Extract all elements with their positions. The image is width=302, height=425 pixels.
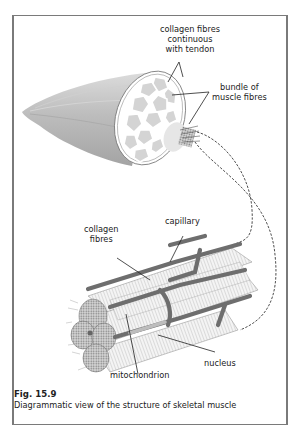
label-capillary: capillary — [165, 216, 200, 226]
label-line: muscle fibres — [212, 92, 267, 102]
label-nucleus: nucleus — [204, 358, 236, 368]
label-line: bundle of — [212, 82, 267, 92]
figure-caption: Diagrammatic view of the structure of sk… — [14, 400, 236, 410]
label-mitochondrion: mitochondrion — [110, 370, 169, 380]
label-bundle-of-muscle-fibres: bundle of muscle fibres — [212, 82, 267, 102]
label-line: collagen — [84, 224, 119, 234]
label-line: with tendon — [160, 44, 220, 54]
figure-number: Fig. 15.9 — [14, 389, 56, 399]
label-collagen-fibres: collagen fibres — [84, 224, 119, 244]
label-line: fibres — [84, 234, 119, 244]
label-line: collagen fibres — [160, 24, 220, 34]
label-collagen-tendon: collagen fibres continuous with tendon — [160, 24, 220, 54]
label-line: continuous — [160, 34, 220, 44]
